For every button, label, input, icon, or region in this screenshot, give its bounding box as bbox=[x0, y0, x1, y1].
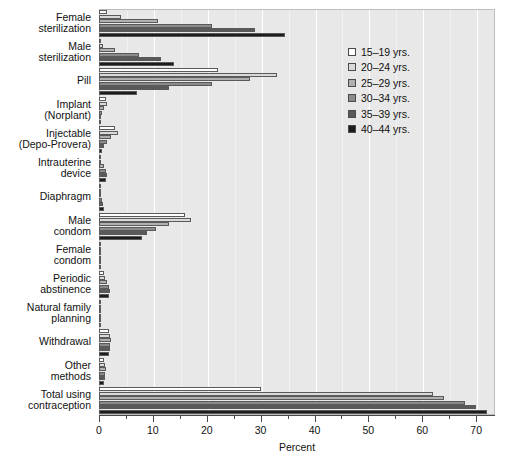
bar bbox=[99, 352, 109, 356]
bar bbox=[99, 149, 102, 153]
legend-item[interactable]: 30–34 yrs. bbox=[348, 91, 458, 107]
y-axis-label-line: condom bbox=[0, 226, 91, 238]
bar bbox=[99, 164, 104, 168]
bar bbox=[99, 289, 110, 293]
bar bbox=[99, 405, 476, 409]
bar bbox=[99, 48, 115, 52]
bar bbox=[99, 247, 101, 251]
legend-swatch-icon bbox=[348, 125, 356, 133]
bar bbox=[99, 318, 101, 322]
bar bbox=[99, 338, 111, 342]
bar bbox=[99, 140, 107, 144]
x-tick-major bbox=[422, 415, 423, 422]
y-axis-label: Femalecondom bbox=[0, 244, 95, 267]
x-tick-major bbox=[368, 415, 369, 422]
y-axis-label: Total usingcontraception bbox=[0, 389, 95, 412]
x-axis bbox=[99, 415, 495, 423]
y-axis-label-line: sterilization bbox=[0, 52, 91, 64]
y-axis-label-line: (Depo-Provera) bbox=[0, 139, 91, 151]
y-axis-label-line: condom bbox=[0, 255, 91, 267]
bar bbox=[99, 314, 101, 318]
bar bbox=[99, 198, 102, 202]
bar-group bbox=[99, 328, 495, 357]
legend-item-label: 25–29 yrs. bbox=[361, 77, 410, 89]
bar bbox=[99, 73, 277, 77]
bar bbox=[99, 169, 106, 173]
bar bbox=[99, 294, 109, 298]
bar bbox=[99, 68, 218, 72]
bar bbox=[99, 347, 110, 351]
bar bbox=[99, 329, 109, 333]
legend-item[interactable]: 25–29 yrs. bbox=[348, 75, 458, 91]
x-tick-major bbox=[207, 415, 208, 422]
x-tick-minor bbox=[234, 415, 235, 419]
legend-item[interactable]: 20–24 yrs. bbox=[348, 60, 458, 76]
bar bbox=[99, 334, 110, 338]
bar bbox=[99, 410, 487, 414]
x-tick-label: 30 bbox=[255, 424, 267, 436]
x-tick-label: 60 bbox=[416, 424, 428, 436]
x-axis-line bbox=[99, 415, 495, 416]
bar bbox=[99, 82, 212, 86]
legend-item[interactable]: 15–19 yrs. bbox=[348, 44, 458, 60]
x-tick-major bbox=[315, 415, 316, 422]
x-axis-title: Percent bbox=[99, 441, 495, 453]
x-tick-minor bbox=[341, 415, 342, 419]
bar bbox=[99, 300, 101, 304]
y-axis-label-line: Pill bbox=[0, 75, 91, 87]
legend-item-label: 15–19 yrs. bbox=[361, 46, 410, 58]
bar bbox=[99, 231, 147, 235]
bar bbox=[99, 213, 185, 217]
bar bbox=[99, 131, 118, 135]
y-axis-labels: FemalesterilizationMalesterilizationPill… bbox=[0, 9, 95, 415]
y-axis-label: Diaphragm bbox=[0, 191, 95, 203]
bar bbox=[99, 387, 261, 391]
legend-item-label: 35–39 yrs. bbox=[361, 108, 410, 120]
bar bbox=[99, 39, 101, 43]
x-tick-major bbox=[153, 415, 154, 422]
contraceptive-use-bar-chart: FemalesterilizationMalesterilizationPill… bbox=[0, 0, 507, 466]
bar bbox=[99, 381, 104, 385]
bar bbox=[99, 256, 101, 260]
x-tick-label: 0 bbox=[96, 424, 102, 436]
y-axis-label: Intrauterinedevice bbox=[0, 157, 95, 180]
bar bbox=[99, 207, 104, 211]
legend-swatch-icon bbox=[348, 48, 356, 56]
y-axis-label-line: device bbox=[0, 168, 91, 180]
bar bbox=[99, 202, 103, 206]
bar-group bbox=[99, 357, 495, 386]
bar bbox=[99, 396, 444, 400]
legend-swatch-icon bbox=[348, 63, 356, 71]
bar bbox=[99, 33, 285, 37]
y-axis-label-line: Withdrawal bbox=[0, 336, 91, 348]
bar bbox=[99, 218, 191, 222]
x-tick-label: 10 bbox=[147, 424, 159, 436]
y-axis-label: Withdrawal bbox=[0, 336, 95, 348]
x-tick-minor bbox=[449, 415, 450, 419]
bar bbox=[99, 62, 174, 66]
bar bbox=[99, 367, 106, 371]
y-axis-label-line: planning bbox=[0, 313, 91, 325]
x-tick-major bbox=[99, 415, 100, 422]
legend: 15–19 yrs.20–24 yrs.25–29 yrs.30–34 yrs.… bbox=[348, 44, 458, 137]
bar bbox=[99, 305, 101, 309]
bar bbox=[99, 86, 169, 90]
bar bbox=[99, 276, 105, 280]
legend-item[interactable]: 40–44 yrs. bbox=[348, 122, 458, 138]
bar bbox=[99, 91, 137, 95]
legend-item[interactable]: 35–39 yrs. bbox=[348, 106, 458, 122]
y-axis-label: Periodicabstinence bbox=[0, 273, 95, 296]
x-tick-minor bbox=[395, 415, 396, 419]
bar-group bbox=[99, 299, 495, 328]
legend-item-label: 40–44 yrs. bbox=[361, 123, 410, 135]
x-tick-minor bbox=[126, 415, 127, 419]
y-axis-label-line: (Norplant) bbox=[0, 110, 91, 122]
bar bbox=[99, 15, 121, 19]
legend-swatch-icon bbox=[348, 110, 356, 118]
legend-item-label: 20–24 yrs. bbox=[361, 61, 410, 73]
bar bbox=[99, 184, 101, 188]
y-axis-label: Femalesterilization bbox=[0, 12, 95, 35]
y-axis-label-line: Diaphragm bbox=[0, 191, 91, 203]
bar-group bbox=[99, 386, 495, 415]
y-axis-label-line: methods bbox=[0, 371, 91, 383]
